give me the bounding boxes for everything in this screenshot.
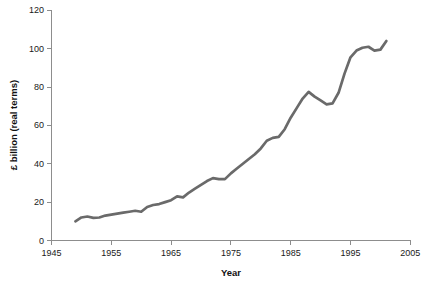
y-tick-label: 40 bbox=[34, 159, 44, 169]
y-tick-label: 60 bbox=[34, 120, 44, 130]
y-axis-ticks: 0 20 40 60 80 100 120 bbox=[29, 5, 52, 245]
x-axis-ticks: 1945 1955 1965 1975 1985 1995 2005 bbox=[41, 241, 420, 259]
x-tick-label: 1985 bbox=[281, 248, 301, 258]
y-tick-label: 100 bbox=[29, 44, 44, 54]
x-axis-title: Year bbox=[221, 267, 241, 278]
x-tick-label: 1965 bbox=[161, 248, 181, 258]
chart-container: 0 20 40 60 80 100 120 1945 1955 1965 197… bbox=[0, 0, 443, 285]
line-chart: 0 20 40 60 80 100 120 1945 1955 1965 197… bbox=[0, 0, 443, 285]
data-series-line bbox=[75, 41, 386, 221]
y-tick-label: 120 bbox=[29, 5, 44, 15]
x-tick-label: 1975 bbox=[221, 248, 241, 258]
y-tick-label: 0 bbox=[39, 236, 44, 246]
x-tick-label: 1955 bbox=[101, 248, 121, 258]
x-tick-label: 2005 bbox=[400, 248, 420, 258]
x-tick-label: 1945 bbox=[41, 248, 61, 258]
x-tick-label: 1995 bbox=[340, 248, 360, 258]
y-tick-label: 80 bbox=[34, 82, 44, 92]
y-tick-label: 20 bbox=[34, 197, 44, 207]
y-axis-title: £ billion (real terms) bbox=[8, 80, 19, 170]
